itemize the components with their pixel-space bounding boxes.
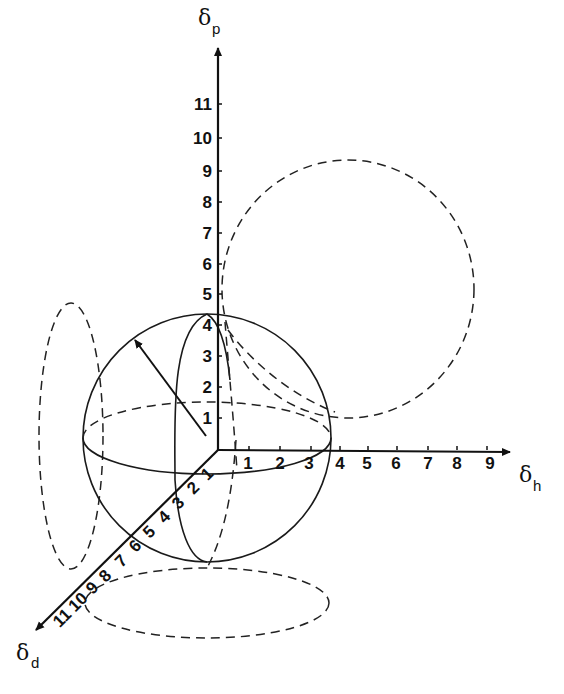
- p-tick-2: 2: [203, 378, 212, 397]
- p-tick-6: 6: [203, 255, 212, 274]
- axis-p-label: δ p: [198, 5, 220, 37]
- h-tick-5: 5: [362, 454, 371, 473]
- p-tick-10: 10: [193, 129, 212, 148]
- h-tick-2: 2: [275, 454, 284, 473]
- hansen-sphere-diagram: 1 2 3 4 5 6 7 8 9 10 11 1 2: [0, 0, 564, 694]
- h-tick-7: 7: [423, 454, 432, 473]
- axis-d-ticks: 1 2 3 4 5 6 7 8 9 10 11: [49, 464, 217, 631]
- d-tick-2: 2: [183, 478, 203, 498]
- projection-ph-circle: [222, 160, 474, 418]
- d-tick-7: 7: [111, 551, 131, 571]
- construction-line-ph-2: [228, 330, 335, 412]
- h-tick-4: 4: [335, 454, 345, 473]
- radius-arrow: [135, 340, 206, 436]
- h-tick-6: 6: [391, 454, 400, 473]
- d-tick-10: 10: [65, 589, 92, 616]
- p-tick-11: 11: [194, 95, 212, 114]
- projection-hd-ellipse: [85, 568, 329, 638]
- axis-d-label: δ d: [16, 640, 39, 671]
- axis-h-symbol: δ: [519, 462, 532, 487]
- p-tick-3: 3: [203, 347, 212, 366]
- axis-d-symbol: δ: [16, 640, 29, 665]
- d-tick-3: 3: [168, 493, 188, 513]
- axis-p-subscript: p: [212, 20, 220, 37]
- d-tick-5: 5: [139, 522, 159, 542]
- h-tick-3: 3: [304, 454, 313, 473]
- p-tick-5: 5: [203, 285, 212, 304]
- projection-pd-ellipse: [39, 303, 103, 569]
- p-tick-8: 8: [203, 193, 212, 212]
- axis-h-label: δ h: [519, 462, 541, 494]
- axis-p-symbol: δ: [198, 5, 211, 30]
- h-tick-8: 8: [452, 454, 461, 473]
- axis-h: [218, 450, 510, 452]
- d-tick-9: 9: [82, 578, 102, 598]
- p-tick-9: 9: [203, 162, 212, 181]
- p-tick-1: 1: [203, 409, 212, 428]
- p-tick-7: 7: [203, 224, 212, 243]
- h-tick-1: 1: [243, 454, 252, 473]
- h-tick-9: 9: [485, 454, 494, 473]
- axis-d-subscript: d: [31, 654, 39, 671]
- d-tick-4: 4: [154, 507, 175, 528]
- d-tick-8: 8: [95, 566, 115, 586]
- axis-h-subscript: h: [533, 477, 541, 494]
- construction-line-hd: [207, 440, 236, 568]
- p-tick-4: 4: [203, 316, 213, 335]
